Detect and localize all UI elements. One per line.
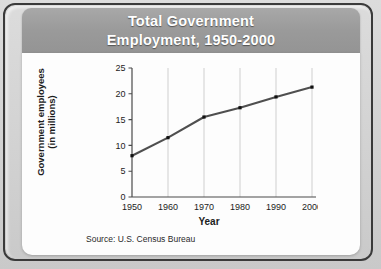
chart-title-banner: Total Government Employment, 1950-2000	[22, 8, 360, 53]
data-series-line	[132, 87, 312, 156]
y-tick-label-5: 5	[120, 166, 125, 176]
figure-root: Total Government Employment, 1950-2000 G…	[0, 0, 381, 269]
data-point-2000	[310, 85, 313, 88]
x-axis-title: Year	[100, 216, 318, 227]
x-tick-label-1960: 1960	[158, 202, 178, 212]
y-axis-title: Government employees (in millions)	[35, 67, 57, 177]
x-tick-label-1980: 1980	[230, 202, 250, 212]
data-point-1970	[202, 115, 205, 118]
y-axis-ticks-group: 0510152025	[115, 63, 132, 202]
chart-title-line-2: Employment, 1950-2000	[107, 31, 276, 50]
y-tick-label-15: 15	[115, 115, 125, 125]
y-axis-title-line-1: Government employees	[35, 67, 46, 177]
line-chart-svg: 0510152025 195019601970198019902000	[100, 63, 318, 218]
chart-title-line-1: Total Government	[128, 12, 254, 31]
chart-card: Government employees (in millions) 05101…	[22, 53, 360, 255]
x-tick-label-1970: 1970	[194, 202, 214, 212]
x-axis-ticks-group: 195019601970198019902000	[122, 202, 318, 212]
data-point-1990	[274, 95, 277, 98]
x-tick-label-1950: 1950	[122, 202, 142, 212]
data-point-1950	[130, 154, 133, 157]
x-tick-label-1990: 1990	[266, 202, 286, 212]
y-axis-title-line-2: (in millions)	[46, 67, 57, 177]
data-point-markers-group	[130, 85, 313, 157]
x-tick-label-2000: 2000	[302, 202, 318, 212]
y-tick-label-20: 20	[115, 89, 125, 99]
y-tick-label-0: 0	[120, 192, 125, 202]
source-label: Source: U.S. Census Bureau	[86, 234, 195, 244]
source-note: Source: U.S. Census Bureau	[86, 234, 195, 244]
y-tick-label-10: 10	[115, 141, 125, 151]
plot-area: 0510152025 195019601970198019902000	[100, 63, 318, 202]
data-point-1980	[238, 106, 241, 109]
gridlines-group	[168, 68, 312, 197]
y-tick-label-25: 25	[115, 63, 125, 73]
data-point-1960	[166, 136, 169, 139]
